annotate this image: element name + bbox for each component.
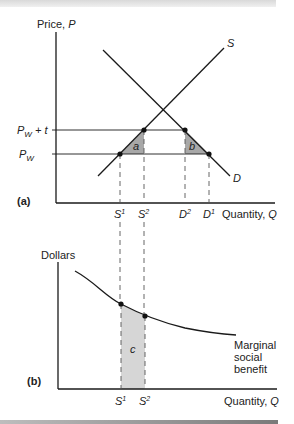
economics-diagram: Price, P S D PW + t PW a b (a) S1 S2 D2 … (0, 0, 294, 424)
marginal-social-benefit-curve (75, 271, 236, 335)
tick-s1-a: S1 (114, 208, 125, 220)
bottom-band (0, 420, 278, 424)
area-c-label: c (130, 343, 136, 355)
point-d2 (182, 127, 187, 132)
dashed-connectors (120, 222, 144, 316)
point-s2 (141, 127, 146, 132)
supply-label: S (227, 37, 235, 49)
panel-a-label: (a) (17, 195, 31, 207)
x-axis-label-b: Quantity, Q (224, 395, 279, 407)
demand-label: D (233, 172, 241, 184)
tick-d1: D1 (203, 208, 215, 220)
point-s1 (117, 151, 122, 156)
demand-curve (103, 50, 230, 176)
msb-label-line3: benefit (234, 363, 267, 375)
x-axis-label-a: Quantity, Q (222, 208, 277, 220)
point-msb-s1 (118, 301, 123, 306)
tick-s2-a: S2 (138, 208, 149, 220)
supply-curve (98, 48, 224, 176)
point-msb-s2 (142, 313, 147, 318)
msb-label-line1: Marginal (234, 339, 276, 351)
y-axis-label-a: Price, P (37, 18, 76, 30)
tick-s1-b: S1 (115, 395, 126, 407)
area-b-label: b (189, 140, 195, 152)
tick-d2: D2 (179, 208, 191, 220)
panel-b: Dollars c Marginal social benefit (b) S1… (27, 249, 279, 407)
point-d1 (206, 151, 211, 156)
panel-a: Price, P S D PW + t PW a b (a) S1 S2 D2 … (17, 18, 277, 220)
y-axis-label-b: Dollars (41, 249, 76, 261)
msb-label-line2: social (234, 351, 262, 363)
panel-b-label: (b) (27, 375, 41, 387)
tick-s2-b: S2 (139, 395, 150, 407)
pw-plus-t-label: PW + t (17, 124, 48, 139)
area-a-label: a (133, 140, 139, 152)
pw-label: PW (19, 148, 35, 163)
